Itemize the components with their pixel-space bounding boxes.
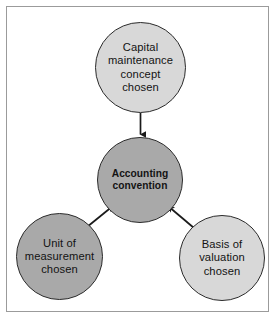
node-accounting-line-2: convention <box>113 180 168 191</box>
node-capital-line-2: maintenance <box>108 54 173 66</box>
node-unit-of-measurement-label: Unit of measurement chosen <box>20 237 100 277</box>
node-capital-maintenance-label: Capital maintenance concept chosen <box>103 41 178 94</box>
node-basis-line-2: valuation <box>199 251 245 263</box>
node-unit-line-2: measurement <box>25 250 95 262</box>
node-accounting-convention-label: Accounting convention <box>107 168 174 192</box>
arrow-basis-to-accounting <box>168 206 194 228</box>
node-unit-line-1: Unit of <box>43 237 76 249</box>
node-basis-line-1: Basis of <box>202 238 243 250</box>
node-capital-line-3: concept <box>121 68 161 80</box>
node-capital-line-4: chosen <box>122 81 159 93</box>
node-capital-line-1: Capital <box>123 41 159 53</box>
node-basis-of-valuation-label: Basis of valuation chosen <box>194 238 250 278</box>
node-accounting-line-1: Accounting <box>112 168 169 179</box>
node-unit-of-measurement[interactable]: Unit of measurement chosen <box>16 213 103 300</box>
node-accounting-convention[interactable]: Accounting convention <box>97 137 183 223</box>
node-basis-of-valuation[interactable]: Basis of valuation chosen <box>179 215 265 301</box>
diagram-canvas: Capital maintenance concept chosen Accou… <box>0 0 277 320</box>
node-basis-line-3: chosen <box>204 265 241 277</box>
node-unit-line-3: chosen <box>41 263 78 275</box>
node-capital-maintenance[interactable]: Capital maintenance concept chosen <box>95 22 186 113</box>
